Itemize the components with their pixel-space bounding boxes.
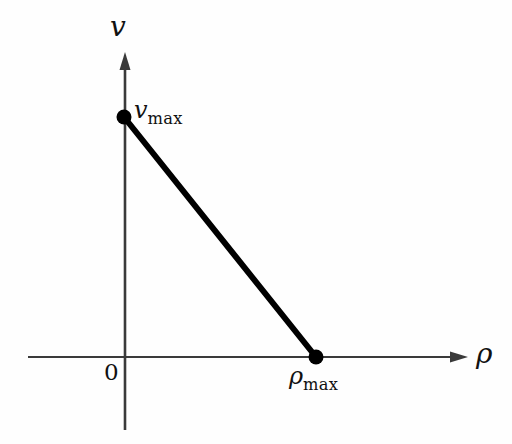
rhomax-subscript: max <box>303 375 338 394</box>
plot-canvas <box>0 0 512 444</box>
vmax-point-marker <box>117 110 132 125</box>
vmax-label: 𝑣max <box>134 98 183 127</box>
figure-container: 𝑣 ρ 𝑣max ρmax 0 <box>0 0 512 444</box>
y-axis-label: 𝑣 <box>110 13 126 41</box>
origin-label: 0 <box>104 361 119 384</box>
y-axis-arrowhead <box>120 52 131 70</box>
x-axis-arrowhead <box>450 352 468 363</box>
velocity-density-line <box>124 117 316 357</box>
vmax-symbol: 𝑣 <box>134 96 148 124</box>
rhomax-point-marker <box>309 350 324 365</box>
vmax-subscript: max <box>148 109 183 128</box>
rhomax-label: ρmax <box>289 364 338 393</box>
rhomax-symbol: ρ <box>289 362 303 390</box>
x-axis-label: ρ <box>476 340 492 368</box>
